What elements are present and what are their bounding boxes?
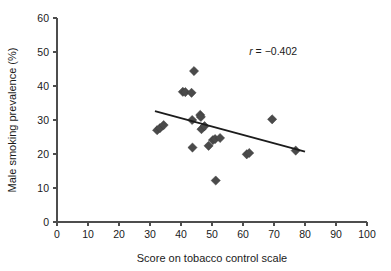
data-point xyxy=(189,66,198,75)
y-tick-label: 20 xyxy=(37,148,49,160)
x-axis-ticks: 0102030405060708090100 xyxy=(54,222,376,240)
data-point-markers xyxy=(153,66,301,185)
y-tick-label: 30 xyxy=(37,114,49,126)
y-tick-label: 40 xyxy=(37,80,49,92)
y-axis-ticks: 0102030405060 xyxy=(37,12,57,228)
y-tick-label: 10 xyxy=(37,182,49,194)
x-tick-label: 80 xyxy=(299,228,311,240)
x-tick-label: 50 xyxy=(206,228,218,240)
chart-canvas: 0102030405060 0102030405060708090100 Mal… xyxy=(0,0,391,271)
linear-regression-line xyxy=(155,111,305,151)
x-tick-label: 100 xyxy=(358,228,376,240)
y-tick-label: 60 xyxy=(37,12,49,24)
x-tick-label: 70 xyxy=(268,228,280,240)
x-tick-label: 40 xyxy=(175,228,187,240)
x-tick-label: 0 xyxy=(54,228,60,240)
x-tick-label: 10 xyxy=(82,228,94,240)
correlation-annotation: r = −0.402 xyxy=(249,45,297,57)
x-tick-label: 60 xyxy=(237,228,249,240)
y-tick-label: 0 xyxy=(43,216,49,228)
y-axis-title: Male smoking prevalence (%) xyxy=(6,48,18,193)
data-point xyxy=(211,176,220,185)
x-tick-label: 20 xyxy=(113,228,125,240)
x-axis-title: Score on tobacco control scale xyxy=(137,252,287,264)
data-point xyxy=(268,115,277,124)
data-point xyxy=(188,143,197,152)
scatter-plot-figure: 0102030405060 0102030405060708090100 Mal… xyxy=(0,0,391,271)
data-point xyxy=(187,88,196,97)
y-tick-label: 50 xyxy=(37,46,49,58)
x-tick-label: 90 xyxy=(330,228,342,240)
x-tick-label: 30 xyxy=(144,228,156,240)
